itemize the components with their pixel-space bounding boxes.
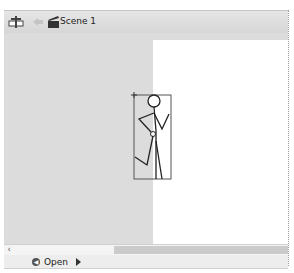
scroll-left-icon[interactable]: ‹: [5, 245, 13, 255]
open-group: ◀ Open: [32, 255, 81, 268]
figure-leg-left: [135, 136, 153, 165]
figure-hip: [151, 132, 156, 137]
open-label[interactable]: Open: [44, 257, 68, 267]
scrollbar-thumb[interactable]: [114, 246, 288, 254]
scene-label[interactable]: Scene 1: [60, 16, 96, 26]
figure-head: [148, 95, 160, 107]
registration-point: [131, 92, 137, 98]
stick-figure-symbol[interactable]: [4, 33, 288, 244]
figure-leg-right: [156, 141, 162, 179]
circle-back-icon[interactable]: ◀: [32, 258, 40, 266]
back-arrow-icon[interactable]: [30, 14, 46, 30]
timeline-toolbar: Scene 1: [4, 10, 288, 34]
panel-edge: [288, 10, 289, 266]
pasteboard: [4, 33, 288, 244]
play-icon[interactable]: [76, 258, 81, 266]
status-bar: ◀ Open: [4, 255, 288, 269]
edit-scene-icon[interactable]: [8, 14, 24, 30]
figure-arm-left: [139, 113, 154, 132]
